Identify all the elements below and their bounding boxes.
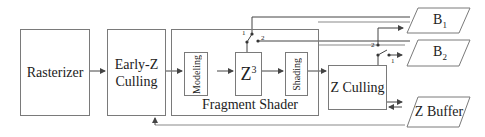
zcull-switch-pos2: 2 bbox=[371, 42, 375, 49]
early-z-label-line1: Early-Z bbox=[115, 56, 159, 73]
modeling-block: Modeling bbox=[184, 52, 208, 96]
z-culling-block: Z Culling bbox=[328, 65, 387, 110]
z3-block: Z3 bbox=[235, 52, 262, 96]
fragment-shader-label: Fragment Shader bbox=[195, 97, 305, 113]
modeling-label: Modeling bbox=[191, 55, 202, 94]
shading-block: Shading bbox=[285, 52, 308, 96]
zcull-switch-pos1: 1 bbox=[391, 58, 395, 65]
b1-output: B1 bbox=[420, 12, 460, 30]
shading-label: Shading bbox=[291, 58, 302, 91]
early-z-culling-block: Early-Z Culling bbox=[107, 29, 166, 116]
z3-label: Z3 bbox=[241, 64, 257, 85]
b2-output: B2 bbox=[420, 44, 460, 62]
z3-switch-pos1: 1 bbox=[242, 30, 246, 37]
z-culling-label: Z Culling bbox=[330, 79, 384, 96]
rasterizer-block: Rasterizer bbox=[20, 29, 90, 116]
early-z-label-line2: Culling bbox=[115, 73, 157, 90]
z-buffer-output: Z Buffer bbox=[410, 104, 468, 120]
rasterizer-label: Rasterizer bbox=[27, 64, 84, 81]
z3-switch-pos2: 2 bbox=[261, 35, 265, 42]
